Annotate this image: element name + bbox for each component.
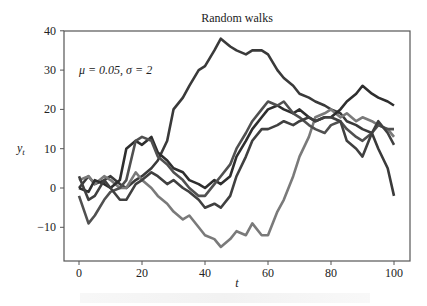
x-tick-label: 0 <box>76 266 82 280</box>
blurred-caption <box>80 293 370 303</box>
y-tick-label: 30 <box>44 63 56 77</box>
parameter-annotation: μ = 0.05, σ = 2 <box>78 63 152 77</box>
x-tick-label: 100 <box>385 266 403 280</box>
x-axis-ticks: 020406080100 <box>76 261 403 280</box>
y-tick-label: 0 <box>50 181 56 195</box>
y-tick-label: 20 <box>44 102 56 116</box>
series-line-5 <box>79 117 394 207</box>
y-tick-label: 10 <box>44 142 56 156</box>
x-tick-label: 20 <box>136 266 148 280</box>
y-axis-label: yt <box>16 141 25 157</box>
y-tick-label: −10 <box>37 220 56 234</box>
random-walks-chart: Random walks 020406080100 −10010203040 μ… <box>0 0 427 306</box>
y-tick-label: 40 <box>44 24 56 38</box>
x-axis-label: t <box>235 276 239 290</box>
x-tick-label: 60 <box>262 266 274 280</box>
y-axis-ticks: −10010203040 <box>37 24 64 235</box>
x-tick-label: 40 <box>199 266 211 280</box>
y-axis-label-sub: t <box>22 147 25 157</box>
chart-title: Random walks <box>201 11 273 25</box>
x-tick-label: 80 <box>325 266 337 280</box>
